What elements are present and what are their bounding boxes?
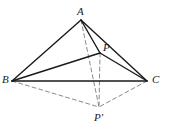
edge-A-B bbox=[12, 20, 81, 81]
edge-P-C bbox=[100, 53, 147, 81]
edge-P-Pprime bbox=[99, 53, 100, 107]
edge-B-Pprime bbox=[12, 81, 99, 107]
vertex-label-a: A bbox=[77, 6, 84, 17]
solid-edge-group bbox=[12, 20, 147, 81]
vertex-label-c: C bbox=[152, 74, 159, 85]
edge-A-C bbox=[81, 20, 147, 81]
edge-B-P bbox=[12, 53, 100, 81]
geometry-figure: A B C P P' bbox=[0, 0, 170, 132]
edge-C-Pprime bbox=[99, 81, 147, 107]
edge-A-P bbox=[81, 20, 100, 53]
vertex-label-p: P bbox=[103, 42, 110, 53]
vertex-label-p-prime: P' bbox=[94, 112, 103, 123]
vertex-label-b: B bbox=[2, 74, 9, 85]
geometry-canvas bbox=[0, 0, 170, 132]
edge-A-Pprime bbox=[81, 20, 99, 107]
